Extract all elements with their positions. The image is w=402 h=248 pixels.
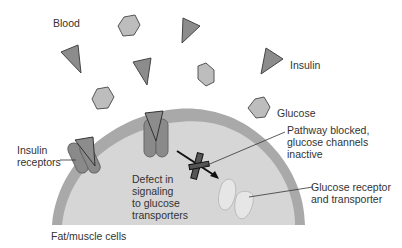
glucose-icon — [198, 63, 214, 86]
glucose-receptor-label: Glucose receptor and transporter — [311, 181, 391, 205]
glucose-icon — [248, 97, 270, 118]
insulin-icon — [182, 18, 200, 43]
glucose-icon — [92, 87, 114, 109]
insulin-receptors-label: Insulin receptors — [17, 144, 61, 168]
glucose-icon — [118, 15, 140, 36]
insulin-legend-label: Insulin — [290, 59, 320, 71]
blood-label: Blood — [53, 17, 80, 29]
glucose-legend-label: Glucose — [277, 107, 316, 119]
fat-muscle-cells-label: Fat/muscle cells — [51, 230, 126, 242]
glucose-molecules — [92, 15, 270, 118]
pathway-blocked-label: Pathway blocked, glucose channels inacti… — [287, 124, 369, 160]
signaling-defect-label: Defect in signaling to glucose transport… — [132, 173, 188, 221]
insulin-molecules — [61, 18, 283, 85]
insulin-icon — [133, 58, 151, 85]
insulin-icon — [261, 48, 283, 74]
insulin-resistance-diagram: Blood Insulin Glucose Insulin receptors … — [0, 0, 402, 248]
insulin-icon — [61, 45, 81, 73]
